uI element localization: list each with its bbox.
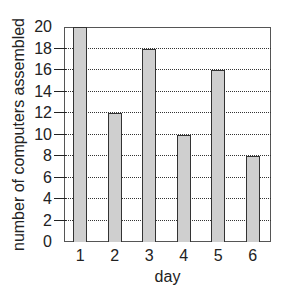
y-tick-mark <box>54 198 66 199</box>
x-tick-label: 5 <box>208 248 228 264</box>
gridline <box>64 155 271 156</box>
y-tick-mark <box>54 91 66 92</box>
gridline <box>64 112 271 113</box>
gridline <box>64 134 271 135</box>
x-tick-label: 3 <box>139 248 159 264</box>
gridline <box>64 69 271 70</box>
y-tick-mark <box>54 134 66 135</box>
x-tick-label: 4 <box>174 248 194 264</box>
gridline <box>64 91 271 92</box>
bar-day-6 <box>246 156 260 242</box>
y-axis-title: number of computers assembled <box>10 18 28 251</box>
y-tick-mark <box>54 220 66 221</box>
gridline <box>64 198 271 199</box>
y-tick-mark <box>54 177 66 178</box>
bar-chart: 02468101214161820 123456 day number of c… <box>0 0 286 302</box>
gridline <box>64 177 271 178</box>
y-tick-mark <box>54 155 66 156</box>
bar-day-4 <box>177 135 191 243</box>
gridline <box>64 220 271 221</box>
x-tick-label: 6 <box>243 248 263 264</box>
bar-day-5 <box>211 70 225 242</box>
y-tick-mark <box>54 69 66 70</box>
y-tick-mark <box>54 112 66 113</box>
y-tick-mark <box>54 48 66 49</box>
bar-day-3 <box>142 49 156 243</box>
gridline <box>64 48 271 49</box>
bar-day-2 <box>108 113 122 242</box>
x-tick-label: 2 <box>105 248 125 264</box>
bar-day-1 <box>73 27 87 242</box>
x-axis-title: day <box>64 268 271 286</box>
x-tick-label: 1 <box>70 248 90 264</box>
